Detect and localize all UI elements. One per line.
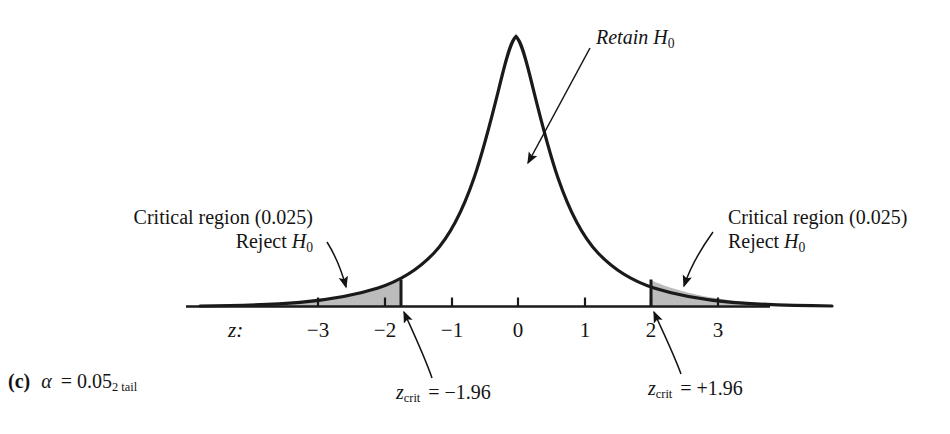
left-zcrit-symbol: z (396, 381, 404, 403)
tick-label-neg3: −3 (307, 318, 329, 343)
left-reject-subscript: 0 (306, 239, 313, 254)
tick-label-1: 1 (580, 318, 591, 343)
left-zcrit-subscript: crit (404, 391, 421, 405)
figure-caption: (c) α = 0.052 tail (8, 370, 137, 395)
left-reject-text: Reject H (236, 230, 307, 252)
right-reject-text: Reject H (728, 230, 799, 252)
tick-label-2: 2 (646, 318, 657, 343)
z-axis-name: z: (228, 318, 243, 343)
left-critical-arrow (327, 242, 346, 287)
right-zcrit-label: zcrit = +1.96 (648, 377, 743, 402)
caption-alpha: α (41, 370, 52, 392)
retain-h0-subscript: 0 (668, 36, 675, 51)
tick-label-3: 3 (713, 318, 724, 343)
left-critical-region-label: Critical region (0.025) Reject H0 (101, 206, 313, 255)
statistics-figure: Retain H0 Critical region (0.025) Reject… (0, 0, 950, 434)
right-reject-line: Reject H0 (728, 230, 943, 256)
right-zcrit-subscript: crit (656, 387, 673, 401)
retain-h0-label: Retain H0 (596, 26, 674, 52)
retain-h0-text: Retain H (596, 26, 668, 48)
left-zcrit-arrow (404, 312, 432, 378)
tick-label-neg2: −2 (374, 318, 396, 343)
right-zcrit-arrow (654, 312, 681, 374)
right-reject-subscript: 0 (799, 239, 806, 254)
right-zcrit-symbol: z (648, 377, 656, 399)
tick-label-neg1: −1 (441, 318, 463, 343)
caption-letter: (c) (8, 370, 30, 392)
right-critical-region-label: Critical region (0.025) Reject H0 (728, 206, 943, 255)
right-critical-arrow (684, 232, 713, 286)
tick-label-0: 0 (513, 318, 524, 343)
normal-curve (200, 37, 832, 307)
left-zcrit-label: zcrit = −1.96 (396, 381, 491, 406)
caption-equation: = 0.05 (61, 370, 112, 392)
caption-subscript: 2 tail (112, 380, 137, 394)
left-reject-line: Reject H0 (101, 230, 313, 256)
left-zcrit-value: = −1.96 (428, 381, 491, 403)
right-zcrit-value: = +1.96 (680, 377, 743, 399)
right-critical-region-title: Critical region (0.025) (728, 206, 943, 230)
left-critical-region-title: Critical region (0.025) (101, 206, 313, 230)
